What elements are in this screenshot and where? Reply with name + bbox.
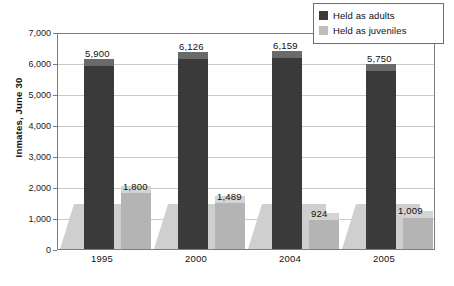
data-label-juveniles-2005: 1,009 (398, 205, 423, 216)
bar-face (84, 66, 114, 249)
bar-face (121, 193, 151, 249)
y-tick-mark (53, 250, 57, 251)
legend-item-juveniles: Held as juveniles (319, 23, 438, 38)
data-label-juveniles-1995: 1,800 (123, 181, 148, 192)
data-label-adults-1995: 5,900 (85, 48, 110, 59)
bar-face (272, 58, 302, 249)
bar-top (366, 64, 396, 71)
bar-face (366, 71, 396, 249)
bar-adults-2000 (178, 59, 208, 249)
x-tick-label-2005: 2005 (344, 253, 424, 264)
y-tick-label-1000: 1,000 (0, 215, 51, 224)
bar-top (272, 51, 302, 58)
x-tick-label-1995: 1995 (62, 253, 142, 264)
y-tick-label-5000: 5,000 (0, 91, 51, 100)
data-label-adults-2004: 6,159 (273, 40, 298, 51)
y-tick-label-7000: 7,000 (0, 29, 51, 38)
bar-face (403, 218, 433, 249)
legend-swatch-juveniles-icon (319, 26, 328, 35)
legend-label-juveniles: Held as juveniles (333, 25, 407, 36)
bar-adults-1995 (84, 66, 114, 249)
x-tick-label-2000: 2000 (156, 253, 236, 264)
y-tick-label-2000: 2,000 (0, 184, 51, 193)
bar-juveniles-2000 (215, 203, 245, 249)
y-axis-title: Inmates, June 30 (13, 53, 24, 183)
bar-face (215, 203, 245, 249)
bar-top (178, 52, 208, 59)
y-tick-label-0: 0 (0, 246, 51, 255)
bar-juveniles-2005 (403, 218, 433, 249)
bar-juveniles-1995 (121, 193, 151, 249)
legend-swatch-adults-icon (319, 11, 328, 20)
plot-area (57, 33, 435, 250)
bar-top (84, 59, 114, 66)
legend-item-adults: Held as adults (319, 8, 438, 23)
legend-label-adults: Held as adults (333, 10, 395, 21)
x-tick-label-2004: 2004 (250, 253, 330, 264)
y-tick-label-3000: 3,000 (0, 153, 51, 162)
bar-adults-2004 (272, 58, 302, 249)
bar-face (309, 220, 339, 249)
bar-adults-2005 (366, 71, 396, 249)
chart-container: Inmates, June 30 7,000 6,000 5,000 4,000… (0, 0, 454, 286)
data-label-adults-2000: 6,126 (179, 41, 204, 52)
y-tick-label-4000: 4,000 (0, 122, 51, 131)
data-label-adults-2005: 5,750 (367, 53, 392, 64)
bar-juveniles-2004 (309, 220, 339, 249)
chart-legend: Held as adults Held as juveniles (313, 3, 444, 44)
data-label-juveniles-2004: 924 (311, 208, 327, 219)
data-label-juveniles-2000: 1,489 (217, 191, 242, 202)
y-tick-label-6000: 6,000 (0, 60, 51, 69)
bar-face (178, 59, 208, 249)
